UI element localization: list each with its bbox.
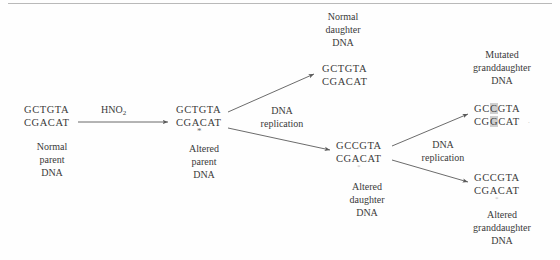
nucleotide: G xyxy=(176,104,184,115)
mutation-marker-altered-granddaughter: * xyxy=(495,196,499,203)
nucleotide: C xyxy=(474,116,482,127)
nucleotide: A xyxy=(338,76,346,87)
mutation-marker-altered-daughter: * xyxy=(357,164,361,171)
nucleotide: G xyxy=(482,116,490,127)
nucleotide: T xyxy=(360,76,367,87)
caption-altered-granddaughter: Altered granddaughter DNA xyxy=(450,208,554,247)
bottom-strand: CGACAT xyxy=(24,117,69,130)
nucleotide: C xyxy=(474,185,482,196)
nucleotide: T xyxy=(62,117,69,128)
top-strand: GCCGTA xyxy=(336,140,382,153)
nucleotide: G xyxy=(330,76,338,87)
top-strand: GCCGTA xyxy=(474,103,520,116)
nucleotide: T xyxy=(338,63,345,74)
nucleotide: C xyxy=(184,104,192,115)
nucleotide: T xyxy=(374,153,381,164)
nucleotide: G xyxy=(47,104,55,115)
bottom-strand: CGACAT xyxy=(322,76,367,89)
nucleotide: G xyxy=(474,103,482,114)
caption-mutated-granddaughter: Mutated granddaughter DNA xyxy=(452,48,552,87)
nucleotide: C xyxy=(344,140,352,151)
nucleotide: C xyxy=(330,63,338,74)
nucleotide: A xyxy=(40,117,48,128)
top-strand: GCCGTA xyxy=(474,172,520,185)
top-strand: GCTGTA xyxy=(24,104,69,117)
nucleotide: T xyxy=(192,104,199,115)
nucleotide: G xyxy=(24,104,32,115)
nucleotide: C xyxy=(482,172,490,183)
nucleotide: G xyxy=(199,104,207,115)
nucleotide: G xyxy=(32,117,40,128)
nucleotide: G xyxy=(345,63,353,74)
nucleotide: A xyxy=(352,153,360,164)
nucleotide: C xyxy=(322,76,330,87)
sequence-altered-daughter: GCCGTA CGACAT xyxy=(336,140,382,165)
nucleotide: A xyxy=(506,116,513,127)
nucleotide: G xyxy=(474,172,482,183)
sequence-normal-daughter: GCTGTA CGACAT xyxy=(322,63,367,88)
nucleotide: G xyxy=(322,63,330,74)
label-dna-replication-2: DNA replication xyxy=(404,138,482,164)
top-strand: GCTGTA xyxy=(322,63,367,76)
top-divider-rule xyxy=(8,3,552,4)
nucleotide: C xyxy=(32,104,40,115)
nucleotide: A xyxy=(512,103,520,114)
label-dna-replication-1: DNA replication xyxy=(243,104,321,130)
nucleotide: C xyxy=(336,153,344,164)
nucleotide: C xyxy=(490,103,498,114)
nucleotide: A xyxy=(490,185,498,196)
nucleotide: C xyxy=(498,116,506,127)
nucleotide: G xyxy=(490,116,499,127)
nucleotide: T xyxy=(40,104,47,115)
dna-mutation-diagram: GCTGTA CGACAT Normal parent DNA HNO2 GCT… xyxy=(0,0,560,260)
nucleotide: C xyxy=(176,117,184,128)
nucleotide: G xyxy=(336,140,344,151)
nucleotide: G xyxy=(482,185,490,196)
nucleotide: T xyxy=(512,185,519,196)
nucleotide: T xyxy=(513,116,520,127)
faint-marker-mutated-granddaughter: . xyxy=(528,118,530,125)
nucleotide: A xyxy=(213,104,221,115)
sequence-normal-parent: GCTGTA CGACAT xyxy=(24,104,69,129)
nucleotide: A xyxy=(359,63,367,74)
nucleotide: A xyxy=(512,172,520,183)
nucleotide: G xyxy=(344,153,352,164)
nucleotide: A xyxy=(374,140,382,151)
mutation-marker-altered-parent: * xyxy=(197,127,202,136)
caption-normal-parent: Normal parent DNA xyxy=(14,140,90,179)
caption-altered-parent: Altered parent DNA xyxy=(166,142,242,181)
nucleotide: C xyxy=(24,117,32,128)
nucleotide: G xyxy=(498,103,506,114)
top-strand: GCTGTA xyxy=(176,104,221,117)
caption-altered-daughter: Altered daughter DNA xyxy=(326,180,408,219)
bottom-strand: CGGCAT xyxy=(474,116,520,129)
sequence-mutated-granddaughter: GCCGTA CGGCAT xyxy=(474,103,520,128)
sequence-altered-granddaughter: GCCGTA CGACAT xyxy=(474,172,520,197)
nucleotide: C xyxy=(482,103,490,114)
caption-normal-daughter: Normal daughter DNA xyxy=(298,10,388,49)
nucleotide: A xyxy=(61,104,69,115)
reagent-label-hno2: HNO2 xyxy=(101,104,126,117)
nucleotide: T xyxy=(214,117,221,128)
arrow-altered-to-altered-daughter xyxy=(228,128,330,150)
nucleotide: G xyxy=(184,117,192,128)
